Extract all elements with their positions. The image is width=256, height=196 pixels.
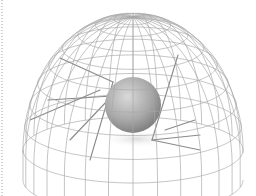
dome-wire-front: [23, 17, 243, 196]
render-frame: [0, 0, 256, 196]
dome-wireframe-render: [0, 0, 256, 196]
